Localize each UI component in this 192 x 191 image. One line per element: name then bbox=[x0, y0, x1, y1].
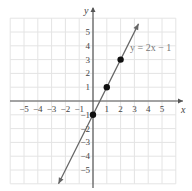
axes bbox=[10, 7, 183, 188]
y-axis-label: y bbox=[83, 5, 89, 16]
y-tick-label: −4 bbox=[80, 151, 90, 161]
x-tick-label: 1 bbox=[105, 104, 110, 114]
x-axis-arrow-icon bbox=[178, 99, 183, 104]
y-tick-label: 3 bbox=[86, 55, 91, 65]
x-tick-label: −4 bbox=[33, 104, 43, 114]
x-tick-label: 3 bbox=[132, 104, 137, 114]
x-tick-label: −3 bbox=[47, 104, 57, 114]
x-tick-label: −2 bbox=[61, 104, 71, 114]
series-line bbox=[59, 24, 139, 184]
y-tick-label: 1 bbox=[86, 82, 91, 92]
x-axis-label: x bbox=[180, 104, 186, 115]
y-tick-label: 2 bbox=[86, 68, 91, 78]
data-point bbox=[104, 84, 110, 90]
equation-label: y = 2x − 1 bbox=[130, 42, 171, 53]
y-tick-label: −3 bbox=[80, 137, 90, 147]
y-axis-arrow-icon bbox=[91, 7, 96, 12]
x-tick-label: 2 bbox=[118, 104, 123, 114]
y-tick-label: −5 bbox=[80, 165, 90, 175]
line-y-equals-2x-minus-1 bbox=[59, 24, 139, 184]
y-tick-label: 5 bbox=[86, 27, 91, 37]
x-tick-label: 4 bbox=[146, 104, 151, 114]
y-tick-label: 4 bbox=[86, 41, 91, 51]
y-tick-label: −1 bbox=[80, 110, 90, 120]
x-tick-label: 5 bbox=[160, 104, 165, 114]
x-tick-label: −5 bbox=[19, 104, 29, 114]
data-point bbox=[90, 112, 96, 118]
data-point bbox=[117, 56, 123, 62]
coordinate-plane: −5−4−3−2−112345−5−4−3−2−112345 x y y = 2… bbox=[0, 0, 192, 191]
